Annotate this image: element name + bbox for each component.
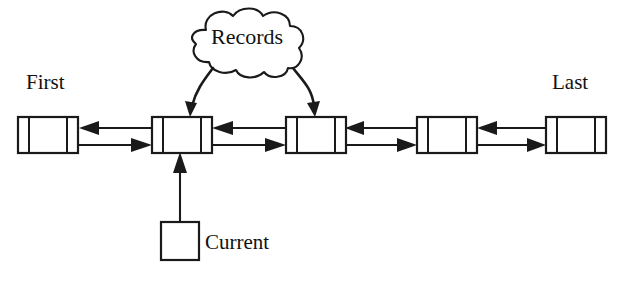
link-backward-3 [345,121,417,135]
cloud-arrow-left-head [185,101,197,117]
list-node-4-box [417,117,477,153]
first-label: First [26,72,65,93]
link-backward-2 [212,121,286,135]
cloud-arrow-left-curve [192,68,213,106]
list-node-5-box [546,117,606,153]
current-pointer-arrow [173,152,187,222]
list-node-1-box [18,117,78,153]
list-node-4 [417,117,477,153]
link-forward-1 [78,138,152,152]
link-backward-2-head [212,121,233,135]
current-label: Current [205,232,269,253]
link-forward-1-head [131,138,152,152]
cloud-arrow-right-curve [293,68,314,106]
link-backward-1 [79,121,152,135]
link-forward-3-head [397,138,417,152]
list-node-2 [152,117,212,153]
link-backward-4-head [477,121,497,135]
link-forward-4-head [527,138,546,152]
list-node-3 [286,117,346,153]
diagram-canvas [0,0,624,281]
link-backward-4 [477,121,546,135]
link-forward-4 [477,138,546,152]
records-cloud-label: Records [188,24,306,50]
list-node-1 [18,117,78,153]
cloud-arrow-right-head [307,101,320,117]
list-node-3-box [286,117,346,153]
link-backward-1-head [79,121,99,135]
link-forward-2-head [265,138,286,152]
link-forward-2 [212,138,286,152]
list-node-5 [546,117,606,153]
last-label: Last [552,72,588,93]
link-forward-3 [345,138,417,152]
list-node-2-box [152,117,212,153]
cloud-arrow-right [293,68,320,117]
cloud-arrow-left [185,68,213,117]
current-pointer-box [161,222,199,260]
linked-list-diagram: First Last Current Records [0,0,624,281]
link-backward-3-head [345,121,364,135]
current-pointer-head [173,152,187,173]
current-pointer-box-group [161,222,199,260]
